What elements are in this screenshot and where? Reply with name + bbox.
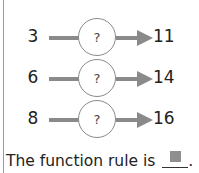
function-row-3: 8 ? 16 [0, 99, 199, 139]
input-value: 8 [26, 108, 40, 128]
function-machine-circle: ? [78, 100, 116, 138]
input-line [49, 36, 79, 40]
output-line [116, 118, 138, 122]
input-line [49, 118, 79, 122]
function-rule-prompt: The function rule is . [6, 151, 193, 170]
answer-placeholder-square [170, 151, 181, 162]
unknown-rule-symbol: ? [94, 71, 101, 86]
answer-blank[interactable] [162, 151, 188, 168]
function-machine-circle: ? [78, 59, 116, 97]
output-line [116, 77, 138, 81]
input-value: 6 [26, 67, 40, 87]
unknown-rule-symbol: ? [94, 30, 101, 45]
function-machine-circle: ? [78, 18, 116, 56]
function-row-2: 6 ? 14 [0, 58, 199, 98]
arrow-right-icon [137, 30, 153, 46]
output-line [116, 36, 138, 40]
output-value: 16 [153, 108, 175, 128]
unknown-rule-symbol: ? [94, 112, 101, 127]
output-value: 14 [153, 67, 175, 87]
prompt-period: . [188, 152, 193, 170]
arrow-right-icon [137, 71, 153, 87]
input-line [49, 77, 79, 81]
function-row-1: 3 ? 11 [0, 17, 199, 57]
prompt-text: The function rule is [6, 152, 155, 170]
input-value: 3 [26, 26, 40, 46]
arrow-right-icon [137, 112, 153, 128]
output-value: 11 [153, 26, 175, 46]
